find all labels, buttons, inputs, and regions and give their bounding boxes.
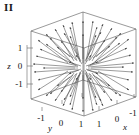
x-tick-label-0: 0 [115, 114, 120, 124]
x-axis-label: x [122, 122, 127, 132]
vector-field-figure: II [0, 0, 139, 135]
cube-bottom-face [31, 80, 136, 116]
x-tick-label-1: 1 [97, 119, 102, 129]
z-tick-label-1: 1 [18, 43, 23, 53]
x-tick-label-neg1: -1 [129, 108, 137, 118]
z-axis-label: z [6, 61, 11, 71]
z-axis [27, 45, 33, 88]
y-tick-label-neg1: -1 [37, 113, 45, 123]
y-axis [42, 93, 82, 111]
vector-arrows [33, 21, 134, 112]
z-tick-label-neg1: -1 [15, 79, 23, 89]
y-axis-label: y [47, 123, 52, 133]
vector-field-plot: 1 0 -1 z -1 0 1 y 1 0 -1 x [0, 0, 139, 135]
y-tick-label-1: 1 [79, 119, 84, 129]
y-tick-label-0: 0 [59, 118, 64, 128]
cube-top-face [31, 12, 136, 48]
z-tick-label-0: 0 [18, 61, 23, 71]
